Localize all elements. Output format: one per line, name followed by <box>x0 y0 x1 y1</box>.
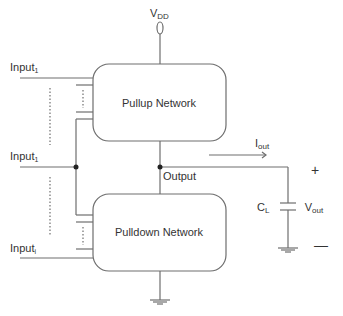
output-label: Output <box>163 170 196 182</box>
input-label-middle: Input1 <box>10 150 38 163</box>
pullup-label: Pullup Network <box>122 97 196 109</box>
vdd-terminal-icon <box>157 22 163 34</box>
ground-icon-pulldown <box>150 300 170 304</box>
pulldown-label: Pulldown Network <box>115 226 204 238</box>
input-label-bottom: Inputi <box>10 242 36 255</box>
cmos-gate-diagram: VDD Pullup Network Pulldown Network Inpu… <box>0 0 343 316</box>
vout-label: Vout <box>305 201 324 215</box>
junction-dot-input <box>74 165 79 170</box>
iout-label: Iout <box>255 137 270 151</box>
ground-icon-load <box>278 248 298 252</box>
vout-plus: + <box>311 162 319 178</box>
vdd-label: VDD <box>150 7 169 21</box>
junction-dot-output <box>158 165 163 170</box>
input-label-top: Input1 <box>10 61 38 74</box>
cl-label: CL <box>257 201 270 215</box>
vout-minus: — <box>314 237 328 253</box>
